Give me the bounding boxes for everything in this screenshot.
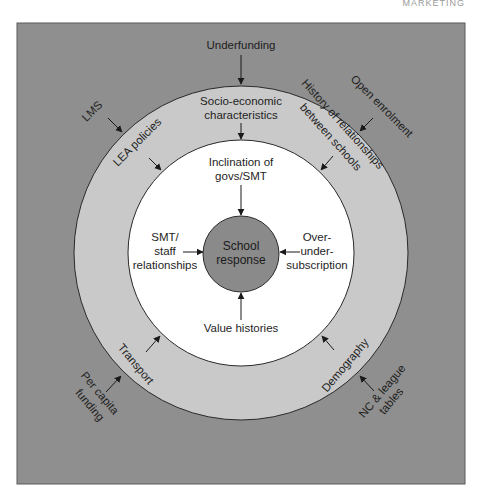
core-label-line2: response	[216, 253, 266, 267]
core-label-line1: School	[223, 239, 260, 253]
inner-factor-oversubscription-line2: under-	[300, 245, 333, 257]
inner-factor-smt-staff-line2: staff	[154, 245, 176, 257]
inner-factor-smt-staff-line3: relationships	[133, 259, 198, 271]
middle-factor-socio-economic-line2: characteristics	[204, 109, 278, 121]
school-response-diagram: School response Underfunding LMS Open en…	[0, 0, 479, 502]
inner-factor-oversubscription-line1: Over-	[303, 231, 332, 243]
inner-factor-inclination-line2: govs/SMT	[215, 170, 267, 182]
middle-factor-socio-economic-line1: Socio-economic	[200, 95, 282, 107]
inner-factor-inclination-line1: Inclination of	[209, 156, 274, 168]
outer-factor-underfunding: Underfunding	[206, 39, 275, 51]
inner-factor-oversubscription-line3: subscription	[286, 259, 347, 271]
inner-factor-smt-staff-line1: SMT/	[151, 231, 179, 243]
inner-factor-value-histories: Value histories	[204, 322, 279, 334]
